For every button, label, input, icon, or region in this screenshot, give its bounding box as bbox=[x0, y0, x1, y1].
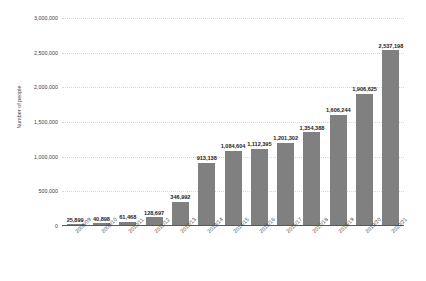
x-tick-slot: 2014/15 bbox=[220, 228, 246, 278]
y-tick-label: 3,000,000 bbox=[2, 15, 58, 21]
y-tick-label: 0 bbox=[2, 223, 58, 229]
x-tick-slot: 2017/18 bbox=[299, 228, 325, 278]
bar-value-label: 1,201,302 bbox=[273, 135, 298, 141]
y-tick-label: 500,000 bbox=[2, 188, 58, 194]
x-tick-slot: 2016/17 bbox=[273, 228, 299, 278]
bar-value-label: 1,354,388 bbox=[300, 125, 325, 131]
bar-value-label: 61,468 bbox=[119, 214, 136, 220]
x-tick-slot: 2010/11 bbox=[115, 228, 141, 278]
bar-slot: 913,138 bbox=[194, 18, 220, 226]
bar-value-label: 1,084,604 bbox=[221, 143, 246, 149]
y-tick-label: 2,500,000 bbox=[2, 50, 58, 56]
x-tick-slot: 2018/19 bbox=[325, 228, 351, 278]
x-tick-slot: 2019/20 bbox=[351, 228, 377, 278]
bar-slot: 1,606,244 bbox=[325, 18, 351, 226]
bar-slot: 1,354,388 bbox=[299, 18, 325, 226]
bar-value-label: 1,606,244 bbox=[326, 107, 351, 113]
bar[interactable]: 1,906,625 bbox=[356, 94, 373, 226]
bar-value-label: 1,112,395 bbox=[247, 141, 271, 147]
bar-slot: 25,899 bbox=[62, 18, 88, 226]
bar-chart: Number of people 0500,0001,000,0001,500,… bbox=[0, 0, 426, 281]
x-tick-slot: 2009/10 bbox=[88, 228, 114, 278]
bar-value-label: 346,992 bbox=[170, 194, 190, 200]
bar-value-label: 2,537,198 bbox=[379, 43, 404, 49]
bar[interactable]: 2,537,198 bbox=[382, 50, 399, 226]
y-tick-label: 1,500,000 bbox=[2, 119, 58, 125]
bar[interactable]: 1,606,244 bbox=[330, 115, 347, 226]
bar-slot: 61,468 bbox=[115, 18, 141, 226]
y-tick-label: 1,000,000 bbox=[2, 154, 58, 160]
bar-series: 25,89940,89861,468128,697346,992913,1381… bbox=[62, 18, 404, 226]
x-tick-slot: 2020/21 bbox=[378, 228, 404, 278]
bar-value-label: 128,697 bbox=[144, 210, 164, 216]
bar-slot: 1,112,395 bbox=[246, 18, 272, 226]
bar-value-label: 913,138 bbox=[197, 155, 217, 161]
bar[interactable]: 1,354,388 bbox=[303, 132, 320, 226]
x-tick-slot: 2013/14 bbox=[194, 228, 220, 278]
bar-slot: 1,201,302 bbox=[273, 18, 299, 226]
bar[interactable]: 1,084,604 bbox=[225, 151, 242, 226]
bar-slot: 346,992 bbox=[167, 18, 193, 226]
bar-slot: 128,697 bbox=[141, 18, 167, 226]
bar-slot: 2,537,198 bbox=[378, 18, 404, 226]
bar-value-label: 1,906,625 bbox=[352, 86, 377, 92]
bar-slot: 40,898 bbox=[88, 18, 114, 226]
plot-area: 25,89940,89861,468128,697346,992913,1381… bbox=[62, 18, 404, 226]
bar-slot: 1,906,625 bbox=[351, 18, 377, 226]
y-tick-label: 2,000,000 bbox=[2, 84, 58, 90]
x-tick-slot: 2008/09 bbox=[62, 228, 88, 278]
x-tick-slot: 2015/16 bbox=[246, 228, 272, 278]
bar[interactable]: 1,201,302 bbox=[277, 143, 294, 226]
bar[interactable]: 1,112,395 bbox=[251, 149, 268, 226]
y-axis-tick-labels: 0500,0001,000,0001,500,0002,000,0002,500… bbox=[0, 18, 58, 226]
bar[interactable]: 913,138 bbox=[198, 163, 215, 226]
x-tick-slot: 2012/13 bbox=[167, 228, 193, 278]
x-tick-slot: 2011/12 bbox=[141, 228, 167, 278]
bar-slot: 1,084,604 bbox=[220, 18, 246, 226]
x-axis-tick-labels: 2008/092009/102010/112011/122012/132013/… bbox=[62, 228, 404, 278]
